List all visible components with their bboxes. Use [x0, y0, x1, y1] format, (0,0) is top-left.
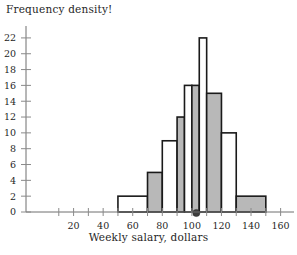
histogram-bar — [177, 117, 184, 212]
histogram-bar — [207, 93, 222, 212]
plot-area: 0246810121416182022 20406080100120140160 — [0, 0, 297, 255]
histogram-chart: Frequency density! 0246810121416182022 2… — [0, 0, 297, 255]
histogram-bar — [184, 85, 191, 212]
histogram-bar — [192, 85, 199, 212]
y-tick-label: 22 — [4, 32, 16, 43]
histogram-bar — [148, 172, 163, 212]
y-tick-label: 6 — [10, 159, 16, 170]
x-tick-label: 120 — [212, 220, 230, 231]
y-tick-label: 2 — [10, 191, 16, 202]
x-tick-label: 40 — [97, 220, 109, 231]
markers-group — [193, 209, 200, 216]
x-tick-label: 160 — [272, 220, 290, 231]
y-tick-labels: 0246810121416182022 — [4, 32, 16, 217]
x-tick-label: 100 — [183, 220, 201, 231]
y-tick-label: 18 — [4, 64, 16, 75]
histogram-bar — [221, 133, 236, 212]
histogram-bar — [162, 141, 177, 212]
y-tick-label: 16 — [4, 80, 16, 91]
histogram-bar — [199, 38, 206, 212]
bars-group — [118, 38, 266, 212]
x-tick-label: 20 — [68, 220, 80, 231]
x-tick-label: 140 — [242, 220, 260, 231]
y-tick-label: 14 — [4, 96, 16, 107]
y-tick-label: 12 — [4, 111, 16, 122]
x-tick-label: 80 — [156, 220, 168, 231]
y-tick-label: 10 — [4, 127, 16, 138]
x-axis-label: Weekly salary, dollars — [0, 231, 297, 243]
y-tick-label: 20 — [4, 48, 16, 59]
y-tick-label: 4 — [10, 175, 16, 186]
median-marker — [193, 209, 200, 216]
x-tick-labels: 20406080100120140160 — [68, 220, 290, 231]
x-tick-label: 60 — [127, 220, 139, 231]
y-tick-label: 8 — [10, 143, 16, 154]
y-tick-label: 0 — [10, 206, 16, 217]
